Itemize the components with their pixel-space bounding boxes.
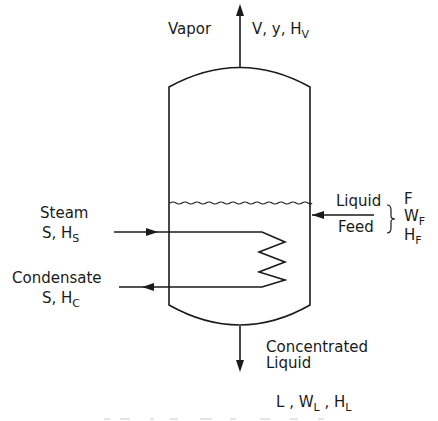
steam-vars: S, HS <box>42 224 79 245</box>
product-vars: L , WL , HL <box>276 393 352 414</box>
condensate-arrow-icon <box>142 283 154 291</box>
steam-label: Steam <box>40 204 88 222</box>
product-label-line2: Liquid <box>266 354 311 372</box>
condensate-label: Condensate <box>12 269 102 287</box>
feed-var-f: F <box>404 190 413 208</box>
evaporator-diagram: Vapor V, y, HV Steam S, HS Condensate S,… <box>0 0 438 421</box>
feed-arrow-icon <box>312 211 324 219</box>
feed-var-hf: HF <box>404 226 422 247</box>
feed-label-line2: Feed <box>338 218 374 236</box>
feed-brace <box>387 205 395 233</box>
vapor-vars: V, y, HV <box>252 20 310 41</box>
condensate-vars: S, HC <box>42 289 80 310</box>
product-arrow-icon <box>236 360 244 372</box>
steam-arrow-icon <box>146 228 158 236</box>
liquid-level <box>170 202 312 204</box>
vapor-arrow-icon <box>236 4 244 16</box>
heating-coil <box>240 232 285 287</box>
feed-label-line1: Liquid <box>336 192 381 210</box>
vapor-label: Vapor <box>168 20 212 38</box>
feed-var-wf: WF <box>404 207 425 228</box>
